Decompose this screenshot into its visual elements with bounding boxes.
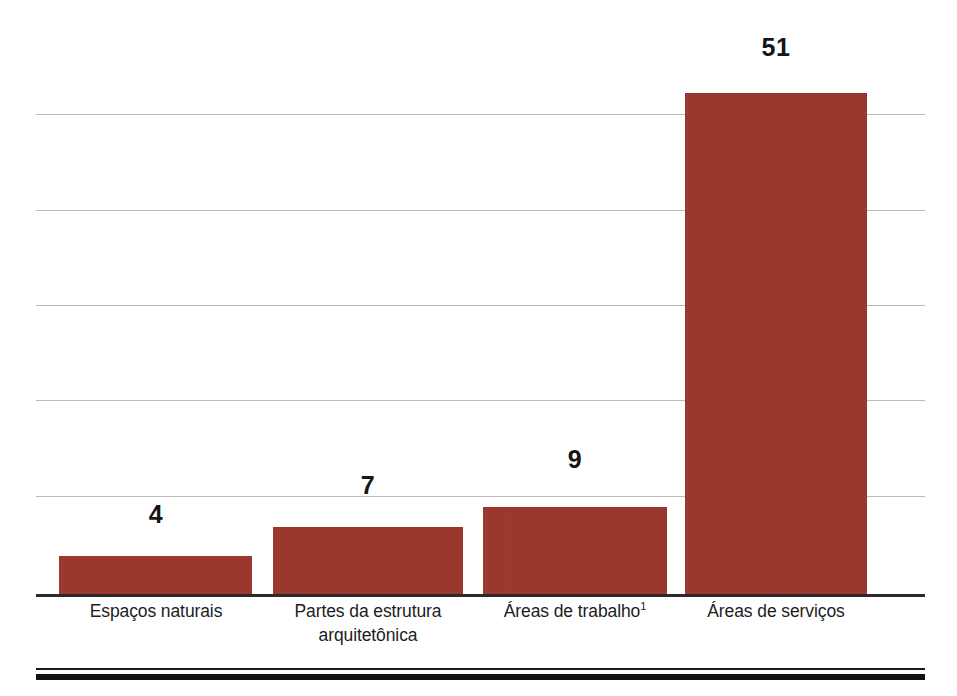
category-label-areas-de-trabalho: Áreas de trabalho1 bbox=[463, 600, 687, 624]
bar-areas-de-trabalho[interactable] bbox=[483, 507, 667, 595]
category-label-line-1: Áreas de serviços bbox=[707, 601, 844, 621]
footnote-marker: 1 bbox=[640, 600, 646, 612]
category-label-line-1: Áreas de trabalho bbox=[504, 601, 640, 621]
category-label-areas-de-servicos: Áreas de serviços bbox=[665, 600, 887, 624]
footer-rule-thick bbox=[36, 674, 925, 680]
value-label-partes-da-estrutura-arquitetonica: 7 bbox=[273, 473, 463, 498]
bar-partes-da-estrutura-arquitetonica[interactable] bbox=[273, 527, 463, 595]
bar-areas-de-servicos[interactable] bbox=[685, 93, 867, 595]
category-label-partes-da-estrutura-arquitetonica: Partes da estrutura arquitetônica bbox=[253, 600, 483, 647]
footer-rule-thin bbox=[36, 668, 925, 670]
value-label-espacos-naturais: 4 bbox=[59, 502, 253, 527]
value-label-areas-de-trabalho: 9 bbox=[483, 447, 667, 472]
bar-espacos-naturais[interactable] bbox=[59, 556, 252, 595]
category-label-line-2: arquitetônica bbox=[319, 625, 418, 645]
chart-page: 4 7 9 51 Espaços naturais Partes da estr… bbox=[0, 0, 957, 696]
category-label-line-1: Espaços naturais bbox=[90, 601, 223, 621]
category-label-line-1: Partes da estrutura bbox=[295, 601, 442, 621]
category-label-espacos-naturais: Espaços naturais bbox=[39, 600, 273, 624]
x-axis-line bbox=[36, 594, 925, 597]
value-label-areas-de-servicos: 51 bbox=[685, 35, 867, 60]
